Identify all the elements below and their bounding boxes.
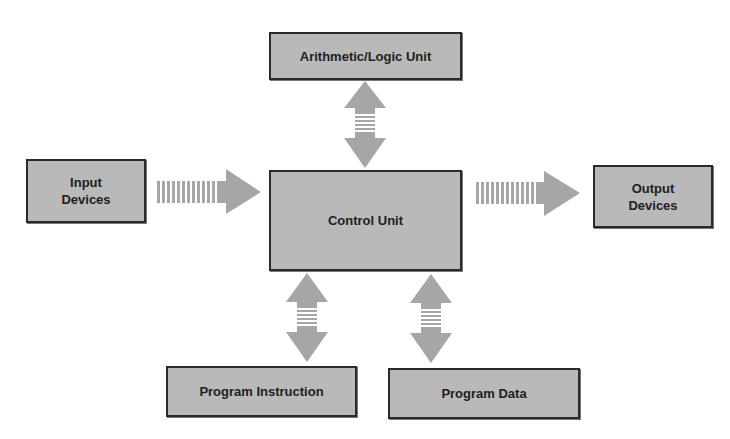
alu-box: Arithmetic/Logic Unit <box>269 32 462 80</box>
input-devices-box: Input Devices <box>26 159 146 223</box>
output-devices-label: Output Devices <box>628 180 677 214</box>
program-data-box: Program Data <box>388 368 580 419</box>
control-unit-box: Control Unit <box>269 170 462 271</box>
control-data-bidirectional-arrow <box>410 274 452 363</box>
alu-control-bidirectional-arrow <box>344 81 386 168</box>
program-instruction-label: Program Instruction <box>199 383 323 400</box>
alu-label: Arithmetic/Logic Unit <box>300 48 431 65</box>
control-unit-label: Control Unit <box>328 212 403 229</box>
control-instruction-bidirectional-arrow <box>286 273 328 362</box>
output-devices-box: Output Devices <box>593 165 713 228</box>
input-devices-label: Input Devices <box>61 174 110 208</box>
program-instruction-box: Program Instruction <box>166 366 357 417</box>
program-data-label: Program Data <box>441 385 526 402</box>
control-to-output-arrow <box>476 171 580 216</box>
input-to-control-arrow <box>157 169 261 214</box>
